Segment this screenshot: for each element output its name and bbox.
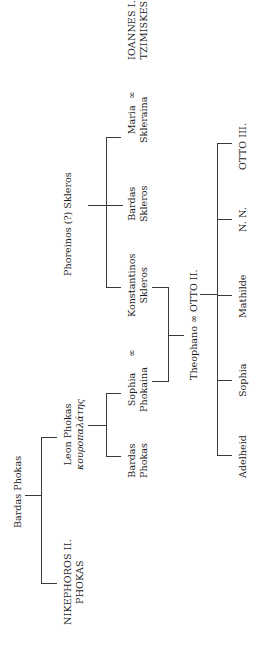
line-to-mathilde xyxy=(217,295,232,296)
person-maria-skleraina: Maria Skleraina xyxy=(126,97,149,143)
person-nikephoros-ii-phokas: NIKEPHOROS II. PHOKAS xyxy=(62,539,85,625)
line-bardas-phokas-children-bar xyxy=(41,437,42,584)
line-phoreinos-children-bar xyxy=(106,137,107,288)
marriage-symbol-sophia-konstantinos: ∞ xyxy=(128,350,137,358)
line-to-maria xyxy=(106,137,121,138)
couple-theophano-otto-ii: Theophano ∞ OTTO II. xyxy=(188,269,200,380)
person-phoreinos-skleros: Phoreinos (?) Skleros xyxy=(62,172,74,276)
child-sophia: Sophia xyxy=(237,364,249,397)
child-otto-iii: OTTO III. xyxy=(237,123,249,170)
person-bardas-skleros: Bardas Skleros xyxy=(126,186,149,222)
line-to-nikephoros xyxy=(41,583,57,584)
person-leon-phokas: Leon Phokas κουροπαλάτης xyxy=(62,399,85,470)
person-bardas-phokas-jr: Bardas Phokas xyxy=(126,443,149,478)
line-leon-children-bar xyxy=(106,393,107,457)
line-to-leon xyxy=(41,437,57,438)
line-to-sophia-child xyxy=(217,380,232,381)
line-otto-children-bar xyxy=(217,143,218,456)
child-nn: N. N. xyxy=(237,207,249,232)
child-mathilde: Mathilde xyxy=(237,274,249,318)
line-konstantinos-marriage xyxy=(152,287,169,288)
line-leon-stem xyxy=(88,425,107,426)
line-to-konstantinos xyxy=(106,287,121,288)
person-bardas-phokas: Bardas Phokas xyxy=(12,456,24,528)
line-to-sophia-phokaina xyxy=(106,393,121,394)
marriage-symbol-maria-ioannes: ∞ xyxy=(128,92,137,100)
line-to-otto-iii xyxy=(217,143,232,144)
person-konstantinos-skleros: Konstantinos Skleros xyxy=(126,254,149,317)
child-adelheid: Adelheid xyxy=(237,435,249,478)
person-ioannes-i-tzimiskes: IOANNES I. TZIMISKES xyxy=(126,0,149,60)
person-sophia-phokaina: Sophia Phokaina xyxy=(126,367,149,412)
line-to-bardas-phokas-jr xyxy=(106,456,121,457)
line-to-adelheid xyxy=(217,455,232,456)
line-to-nn xyxy=(217,219,232,220)
line-sophia-marriage xyxy=(152,381,169,382)
line-otto-ii-stem xyxy=(200,294,218,295)
line-bardas-phokas-stem xyxy=(25,495,42,496)
line-to-theophano xyxy=(168,335,184,336)
